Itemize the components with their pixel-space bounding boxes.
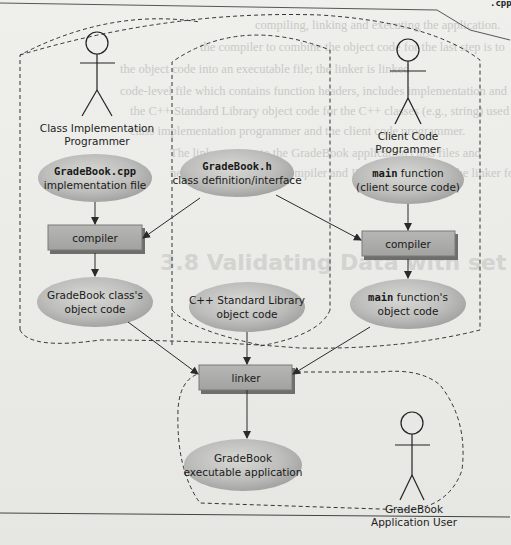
region-bottom-left	[20, 330, 480, 348]
actor-label-application-user: GradeBookApplication User	[371, 503, 457, 529]
node-main-object-label: main function's object code	[368, 290, 448, 318]
actor-label-client-code: Client CodeProgrammer	[375, 130, 440, 156]
header-fragment: .cpp	[490, 0, 511, 8]
actor-application-user	[395, 412, 430, 500]
compiler-right-label: compiler	[385, 238, 431, 250]
compiler-left-label: compiler	[72, 232, 118, 244]
node-client-source-label: main function (client source code)	[356, 166, 460, 194]
linker-label: linker	[232, 372, 261, 384]
node-executable-label: GradeBook executable application	[184, 451, 303, 479]
actor-client-code-programmer	[390, 39, 426, 124]
node-impl-file-label: GradeBook.cpp implementation file	[44, 164, 147, 192]
actor-class-impl-programmer	[80, 32, 115, 116]
actor-label-class-impl: Class ImplementationProgrammer	[40, 122, 154, 148]
node-stdlib-object-label: C++ Standard Library object code	[189, 293, 305, 321]
node-class-object-label: GradeBook class's object code	[47, 288, 143, 316]
page-edge-top	[0, 3, 510, 40]
node-header-file-label: GradeBook.h class definition/interface	[172, 159, 301, 187]
